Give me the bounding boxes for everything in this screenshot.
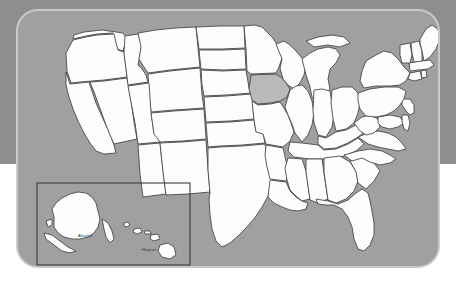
state-TX[interactable] bbox=[208, 144, 274, 247]
hawaii-label: Hawaii bbox=[142, 247, 156, 252]
hawaii-islands[interactable] bbox=[124, 222, 176, 259]
map-figure: Alaska Hawaii bbox=[0, 0, 456, 285]
state-NE[interactable] bbox=[201, 70, 251, 96]
state-MD[interactable] bbox=[378, 115, 404, 129]
state-RI[interactable] bbox=[421, 70, 427, 78]
state-MT[interactable] bbox=[138, 27, 200, 73]
state-NJ[interactable] bbox=[402, 99, 414, 115]
state-VT[interactable] bbox=[400, 43, 412, 63]
state-PA[interactable] bbox=[358, 87, 406, 117]
state-HI-molokai bbox=[144, 231, 151, 234]
state-NM[interactable] bbox=[160, 140, 210, 195]
state-HI-oahu bbox=[133, 228, 142, 234]
state-HI-kauai bbox=[124, 222, 130, 227]
us-states-map[interactable]: Alaska Hawaii bbox=[18, 11, 440, 268]
state-WY[interactable] bbox=[148, 68, 204, 112]
state-ND[interactable] bbox=[196, 26, 245, 49]
state-KS[interactable] bbox=[204, 94, 254, 122]
state-HI-bigisland bbox=[158, 243, 176, 259]
state-HI-maui bbox=[150, 234, 160, 241]
state-CO[interactable] bbox=[151, 109, 206, 142]
alaska-label: Alaska bbox=[78, 233, 93, 238]
state-IN[interactable] bbox=[313, 89, 334, 137]
state-DE[interactable] bbox=[402, 115, 410, 131]
state-SD[interactable] bbox=[199, 49, 246, 70]
state-ME[interactable] bbox=[420, 25, 440, 61]
state-MN[interactable] bbox=[244, 25, 282, 74]
state-AK[interactable] bbox=[44, 192, 114, 253]
state-MA[interactable] bbox=[409, 60, 434, 71]
map-card: Alaska Hawaii bbox=[16, 9, 440, 268]
